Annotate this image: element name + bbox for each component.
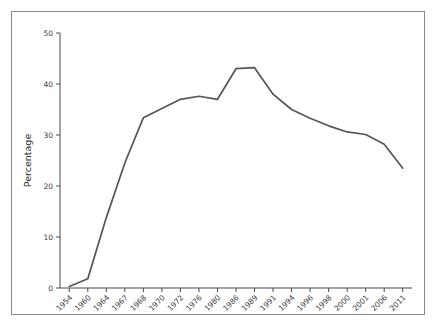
y-axis-tick-label: 40 bbox=[43, 80, 53, 89]
x-axis-tick-label: 1980 bbox=[203, 293, 223, 313]
y-axis-tick-label: 50 bbox=[43, 29, 53, 38]
x-axis-tick-label: 1976 bbox=[184, 293, 204, 313]
x-axis-tick-label: 1996 bbox=[295, 293, 315, 313]
x-axis-tick-label: 2000 bbox=[332, 293, 352, 313]
y-axis-tick-label: 10 bbox=[43, 233, 53, 242]
series-line bbox=[69, 68, 402, 287]
x-axis-tick-label: 2001 bbox=[351, 293, 371, 313]
x-axis-tick-label: 1991 bbox=[258, 293, 278, 313]
y-axis-tick-label: 30 bbox=[43, 131, 53, 140]
x-axis-tick-label: 1970 bbox=[147, 293, 167, 313]
x-axis-tick-label: 1994 bbox=[277, 293, 297, 313]
chart-figure: 01020304050Percentage1954196019641967196… bbox=[0, 0, 438, 335]
x-axis-tick-label: 1972 bbox=[165, 293, 185, 313]
x-axis-tick-label: 2006 bbox=[369, 293, 389, 313]
x-axis-tick-label: 1989 bbox=[240, 293, 260, 313]
line-chart-plot: 01020304050Percentage1954196019641967196… bbox=[0, 0, 438, 335]
x-axis-tick-label: 2011 bbox=[388, 293, 408, 313]
x-axis-tick-label: 1954 bbox=[54, 293, 74, 313]
x-axis-tick-label: 1998 bbox=[314, 293, 334, 313]
y-axis-title: Percentage bbox=[22, 134, 33, 188]
x-axis-tick-label: 1986 bbox=[221, 293, 241, 313]
x-axis-tick-label: 1960 bbox=[73, 293, 93, 313]
x-axis-tick-label: 1964 bbox=[91, 293, 111, 313]
y-axis-tick-label: 0 bbox=[48, 284, 53, 293]
y-axis-tick-label: 20 bbox=[43, 182, 53, 191]
x-axis-tick-label: 1967 bbox=[110, 293, 130, 313]
x-axis-tick-label: 1968 bbox=[128, 293, 148, 313]
